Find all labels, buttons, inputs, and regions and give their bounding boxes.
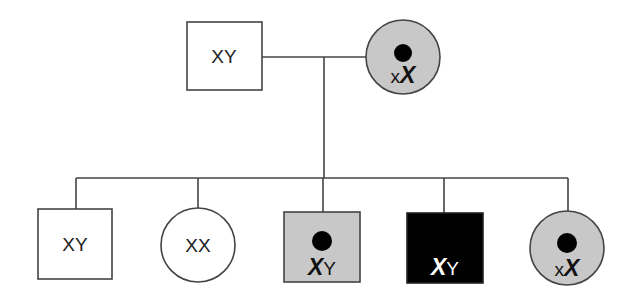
genotype-label: XY bbox=[306, 254, 336, 280]
genotype-label: xX bbox=[391, 62, 418, 88]
carrier-dot-icon bbox=[394, 44, 412, 62]
genotype-label: XY bbox=[429, 254, 459, 280]
genotype-label: XY bbox=[211, 46, 237, 67]
child-4-node: XY bbox=[407, 213, 483, 283]
pedigree-lines bbox=[76, 57, 568, 213]
carrier-dot-icon bbox=[557, 233, 577, 253]
genotype-label: XY bbox=[62, 234, 88, 255]
child-1-node: XY bbox=[38, 209, 112, 279]
carrier-dot-icon bbox=[312, 231, 332, 251]
pedigree-diagram: XY xX XY XX XY XY xX bbox=[0, 0, 642, 304]
mother-node: xX bbox=[366, 20, 440, 94]
father-node: XY bbox=[187, 22, 262, 90]
child-3-node: XY bbox=[284, 212, 360, 282]
child-5-node: xX bbox=[530, 211, 604, 285]
genotype-label: xX bbox=[555, 255, 582, 281]
child-2-node: XX bbox=[161, 208, 235, 282]
genotype-label: XX bbox=[185, 235, 211, 256]
